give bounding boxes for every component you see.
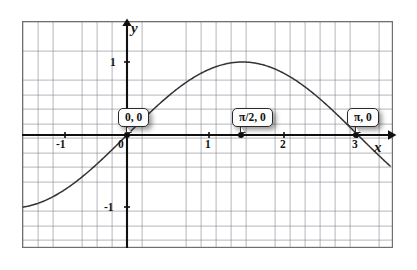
sine-curve-graph: y x -1 0 1 2 3 1 -1 0, 0 π/2, 0 π, 0: [0, 0, 417, 270]
y-tick-label-1: 1: [110, 57, 116, 69]
callout-half-pi[interactable]: π/2, 0: [232, 108, 273, 127]
callout-half-pi-text: π/2, 0: [239, 111, 266, 123]
x-axis-label: x: [374, 140, 382, 155]
callout-pointer-icon: [355, 126, 361, 133]
sine-curve: [20, 62, 390, 212]
callout-pi[interactable]: π, 0: [347, 108, 379, 127]
callout-origin[interactable]: 0, 0: [118, 108, 149, 127]
callout-pi-text: π, 0: [354, 111, 372, 123]
callout-pointer-icon: [126, 126, 132, 133]
x-tick-label-3: 3: [352, 139, 358, 151]
callout-pointer-icon: [240, 126, 246, 133]
x-tick-label-neg1: -1: [56, 139, 66, 151]
callout-origin-text: 0, 0: [125, 111, 142, 123]
x-tick-label-2: 2: [280, 139, 286, 151]
y-axis-label: y: [131, 21, 138, 36]
x-tick-label-0: 0: [118, 139, 124, 151]
x-tick-label-1: 1: [205, 139, 211, 151]
y-tick-label-neg1: -1: [104, 202, 114, 214]
